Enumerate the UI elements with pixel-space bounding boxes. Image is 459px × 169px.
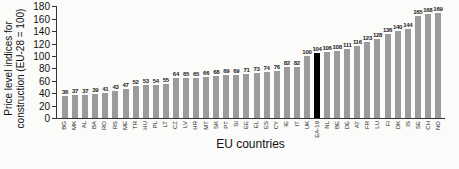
bar-value-label: 76 — [274, 64, 280, 70]
bar-column: 68 — [211, 69, 221, 118]
bar-column: 165 — [413, 9, 423, 118]
x-category-label: NO — [435, 121, 441, 130]
x-category-slot: CY — [271, 119, 281, 139]
bar — [62, 96, 68, 118]
bar-value-label: 128 — [373, 32, 382, 38]
bar-value-label: 106 — [323, 45, 332, 51]
x-category-label: UK — [304, 121, 310, 129]
x-category-label: PL — [152, 121, 158, 128]
bar — [143, 85, 149, 118]
x-category-label: CH — [425, 121, 431, 130]
bar — [173, 78, 179, 118]
bar-column: 74 — [262, 65, 272, 118]
bar — [334, 51, 340, 118]
x-category-label: AT — [354, 121, 360, 128]
x-category-slot: AL — [79, 119, 89, 139]
bar-column: 37 — [70, 88, 80, 118]
y-axis-title: Price level indices for construction (EU… — [0, 6, 30, 130]
x-category-label: AL — [81, 121, 87, 128]
bar — [435, 13, 441, 118]
bar-value-label: 74 — [264, 65, 270, 71]
bar-value-label: 165 — [413, 9, 422, 15]
bar-value-label: 36 — [62, 89, 68, 95]
x-category-slot: AT — [352, 119, 362, 139]
bar — [395, 31, 401, 118]
x-category-slot: EL — [251, 119, 261, 139]
x-category-labels: BGMKALBARORSMETRHUPLLTCZLVHRMTSKPTSIEEEL… — [56, 119, 445, 139]
x-category-slot: BA — [89, 119, 99, 139]
y-tick-label: 100 — [33, 52, 50, 62]
bar-column: 144 — [403, 22, 413, 118]
bar — [284, 67, 290, 118]
bar — [163, 84, 169, 118]
x-category-label: SK — [213, 121, 219, 129]
x-category-slot: FI — [383, 119, 393, 139]
x-category-slot: PL — [150, 119, 160, 139]
bar-column: 136 — [383, 27, 393, 118]
x-category-slot: EA-19 — [312, 119, 322, 139]
x-category-label: ME — [122, 121, 128, 130]
bar — [324, 52, 330, 118]
bar-value-label: 136 — [383, 27, 392, 33]
bar — [294, 67, 300, 118]
x-category-slot: DE — [342, 119, 352, 139]
x-category-slot: NL — [322, 119, 332, 139]
y-tick-label: 120 — [33, 40, 50, 50]
bar-column: 52 — [131, 79, 141, 118]
x-category-label: DE — [344, 121, 350, 129]
x-category-slot: BE — [332, 119, 342, 139]
bar-column: 76 — [272, 64, 282, 118]
bar — [183, 78, 189, 118]
x-category-slot: SK — [211, 119, 221, 139]
x-category-slot: ES — [261, 119, 271, 139]
bar-value-label: 43 — [112, 84, 118, 90]
y-axis-title-line1: Price level indices for — [4, 21, 15, 115]
bar-value-label: 65 — [183, 71, 189, 77]
bar — [223, 75, 229, 118]
bar-column: 64 — [171, 71, 181, 118]
x-category-label: HU — [142, 121, 148, 130]
x-category-slot: TR — [130, 119, 140, 139]
bar-value-label: 68 — [213, 69, 219, 75]
bar-column: 123 — [362, 35, 372, 118]
x-category-label: EE — [243, 121, 249, 129]
x-category-label: SI — [233, 121, 239, 127]
plot-area: 3637373941434752535455646565666869697173… — [56, 6, 445, 119]
plot-wrap: 020406080100120140160180 363737394143475… — [30, 6, 459, 119]
bar-column: 128 — [372, 32, 382, 118]
bar — [243, 74, 249, 118]
bar-value-label: 54 — [153, 78, 159, 84]
bar-column: 54 — [151, 78, 161, 119]
bar — [102, 93, 108, 118]
y-tick-label: 40 — [39, 89, 50, 99]
bar-column: 116 — [352, 39, 362, 118]
bar-value-label: 82 — [294, 60, 300, 66]
bar — [304, 56, 310, 118]
bar-value-label: 144 — [403, 22, 412, 28]
bar — [193, 78, 199, 118]
bar-value-label: 37 — [82, 88, 88, 94]
bar-value-label: 169 — [433, 6, 442, 12]
bar-value-label: 111 — [343, 42, 351, 48]
x-category-slot: HU — [140, 119, 150, 139]
bar-column: 53 — [141, 78, 151, 118]
bar-value-label: 47 — [122, 82, 128, 88]
x-category-label: ES — [263, 121, 269, 129]
bar — [112, 91, 118, 118]
x-axis-title: EU countries — [56, 137, 445, 151]
bar-column: 36 — [60, 89, 70, 118]
bar-value-label: 73 — [253, 66, 259, 72]
x-category-slot: PT — [221, 119, 231, 139]
bar — [264, 72, 270, 118]
x-category-slot: IS — [403, 119, 413, 139]
bar-column: 100 — [302, 49, 312, 118]
x-category-label: BE — [334, 121, 340, 129]
bar — [274, 71, 280, 118]
x-category-slot: HR — [190, 119, 200, 139]
bar — [72, 95, 78, 118]
x-category-label: CY — [273, 121, 279, 129]
bar-column: 108 — [332, 44, 342, 118]
x-category-slot: DK — [393, 119, 403, 139]
x-category-label: DK — [395, 121, 401, 129]
bar — [354, 46, 360, 118]
